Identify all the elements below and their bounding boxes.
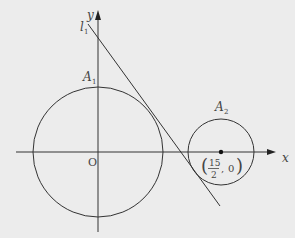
y-axis — [95, 10, 101, 232]
svg-text:,: , — [221, 163, 224, 174]
svg-text:2: 2 — [224, 108, 228, 116]
svg-text:(: ( — [201, 155, 208, 176]
y-axis-arrow-icon — [95, 10, 101, 20]
origin-label: O — [88, 156, 97, 169]
coordinate-diagram: y x O l 1 A 1 A 2 ( 15 2 , 0 ) — [0, 0, 295, 238]
line-l1-label: l 1 — [80, 20, 88, 36]
svg-text:A: A — [82, 70, 92, 84]
x-axis-arrow-icon — [267, 149, 276, 155]
circle-a1-label: A 1 — [82, 70, 96, 86]
tangent-line-l1 — [88, 24, 220, 206]
svg-text:2: 2 — [211, 170, 217, 180]
svg-text:15: 15 — [209, 158, 221, 168]
svg-text:1: 1 — [92, 78, 96, 86]
circle-a2-label: A 2 — [214, 100, 228, 116]
svg-text:A: A — [214, 100, 224, 114]
circle-a2-center-point — [219, 150, 223, 154]
circle-a2-center-label: ( 15 2 , 0 ) — [201, 155, 243, 180]
y-axis-label: y — [86, 8, 94, 22]
svg-text:1: 1 — [84, 28, 88, 36]
x-axis-label: x — [282, 151, 289, 165]
svg-text:0: 0 — [228, 163, 234, 174]
svg-text:): ) — [236, 155, 243, 176]
